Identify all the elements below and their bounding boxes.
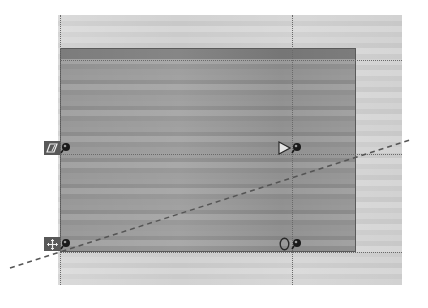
perspective-handle[interactable]	[277, 140, 301, 156]
pin-icon	[291, 238, 301, 250]
pin-icon	[60, 142, 70, 154]
pin-icon	[60, 238, 70, 250]
skew-icon	[44, 141, 60, 155]
move-icon	[44, 237, 60, 251]
triangle-right-icon	[277, 140, 291, 156]
move-handle[interactable]	[44, 237, 70, 251]
rotate-icon	[277, 236, 291, 252]
dashed-diagonal-line[interactable]	[10, 140, 410, 268]
skew-handle[interactable]	[44, 141, 70, 155]
rotate-handle[interactable]	[277, 236, 301, 252]
pin-icon	[291, 142, 301, 154]
